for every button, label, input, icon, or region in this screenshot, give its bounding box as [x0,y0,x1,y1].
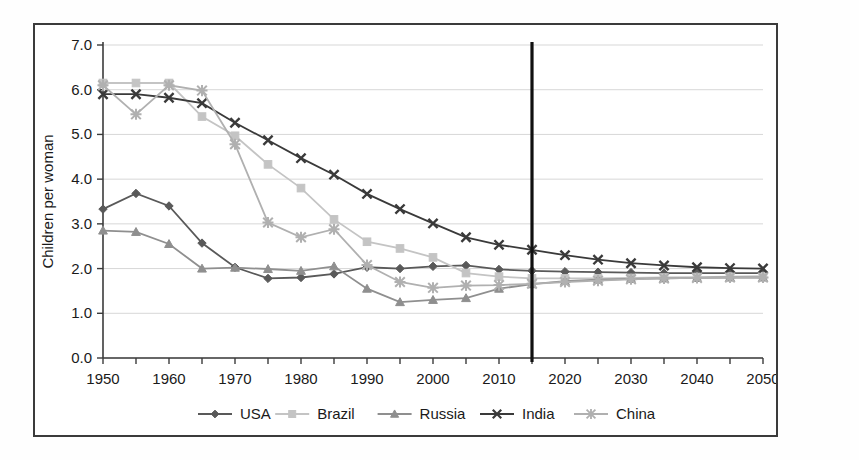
data-point-marker [625,274,636,285]
legend-item-china[interactable]: China [574,405,656,422]
legend-item-russia[interactable]: Russia [378,405,467,422]
data-point-marker [330,216,338,224]
y-tick-label: 4.0 [71,170,92,187]
x-tick-label: 1990 [350,370,383,387]
series-brazil [99,79,767,282]
data-point-marker [196,85,207,96]
y-tick-label: 7.0 [71,36,92,53]
y-tick-label: 3.0 [71,215,92,232]
data-point-marker [97,80,108,91]
legend-item-india[interactable]: India [480,405,555,422]
data-point-marker [493,280,504,291]
y-axis-tick-labels: 0.01.02.03.04.05.06.07.0 [71,36,92,366]
data-point-marker [330,270,338,278]
data-point-marker [757,272,768,283]
x-tick-label: 2040 [680,370,713,387]
y-tick-label: 6.0 [71,81,92,98]
data-point-marker [395,205,404,214]
data-point-marker [296,154,305,163]
data-point-marker [264,161,272,169]
data-point-marker [262,217,273,228]
data-point-marker [229,139,240,150]
data-point-marker [429,262,437,270]
data-point-marker [396,264,404,272]
data-point-marker [297,184,305,192]
y-tick-label: 2.0 [71,260,92,277]
data-point-marker [289,411,296,418]
x-axis-ticks-group [103,358,763,364]
legend-item-brazil[interactable]: Brazil [275,405,355,422]
data-point-marker [163,80,174,91]
data-point-marker [361,259,372,270]
y-tick-label: 1.0 [71,304,92,321]
plot-series-group [97,79,768,305]
legend-item-label: Brazil [317,405,355,422]
data-point-marker [362,189,371,198]
data-point-marker [132,79,140,87]
x-tick-label: 2020 [548,370,581,387]
legend-item-label: China [616,405,656,422]
data-point-marker [132,189,140,197]
data-point-marker [460,280,471,291]
data-point-marker [264,274,272,282]
data-point-marker [130,109,141,120]
figure-container: 0.01.02.03.04.05.06.07.0 195019601970198… [0,0,859,460]
x-axis-tick-labels: 1950196019701980199020002010202020302040… [86,370,776,387]
legend-group: USABrazilRussiaIndiaChina [198,405,656,422]
data-point-marker [724,272,735,283]
legend-item-label: USA [240,405,271,422]
y-tick-label: 5.0 [71,125,92,142]
data-point-marker [429,254,437,262]
data-point-marker [462,269,470,277]
x-tick-label: 2030 [614,370,647,387]
data-point-marker [263,136,272,145]
data-point-marker [211,410,219,418]
x-tick-label: 1960 [152,370,185,387]
chart-frame: 0.01.02.03.04.05.06.07.0 195019601970198… [33,23,778,437]
y-axis-title: Children per woman [39,134,56,268]
data-point-marker [592,275,603,286]
data-point-marker [559,276,570,287]
data-point-marker [363,238,371,246]
x-tick-label: 2000 [416,370,449,387]
x-tick-label: 1980 [284,370,317,387]
data-point-marker [427,282,438,293]
data-point-marker [394,276,405,287]
data-point-marker [99,205,107,213]
y-axis-title-text: Children per woman [39,134,56,268]
data-point-marker [328,224,339,235]
data-point-marker [363,284,372,292]
data-point-marker [396,245,404,253]
legend-item-label: Russia [420,405,467,422]
legend-item-usa[interactable]: USA [198,405,271,422]
data-point-marker [658,273,669,284]
x-tick-label: 2010 [482,370,515,387]
data-point-marker [329,170,338,179]
x-tick-label: 1970 [218,370,251,387]
x-tick-label: 2050 [746,370,776,387]
data-point-marker [586,409,596,419]
data-point-marker [230,118,239,127]
legend-item-label: India [522,405,555,422]
y-tick-label: 0.0 [71,349,92,366]
data-point-marker [691,272,702,283]
data-point-marker [198,113,206,121]
data-point-marker [495,273,503,281]
fertility-rate-line-chart: 0.01.02.03.04.05.06.07.0 195019601970198… [35,25,776,435]
data-point-marker [295,232,306,243]
x-tick-label: 1950 [86,370,119,387]
